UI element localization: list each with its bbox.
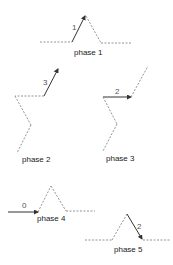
phase-3-low-segment [103,124,117,151]
phase-4-down-segment [51,186,66,211]
phase-5-label: phase 5 [114,245,143,254]
phase-5-up-segment [112,214,127,240]
phase-3-label: phase 3 [106,154,135,163]
phase-2-low-segment [17,125,31,153]
phase-3-mid-segment [103,97,117,124]
phase-4: 0 phase 4 [8,186,95,223]
phase-2: 3 phase 2 [15,69,58,164]
phase-3-step: 2 [115,87,120,96]
phase-4-up-segment [38,186,51,212]
phase-1-step: 1 [72,23,77,32]
phase-4-step: 0 [22,201,27,210]
phase-diagram: 1 phase 1 3 phase 2 2 phase 3 0 phase 4 … [0,0,173,265]
phase-1-label: phase 1 [74,48,103,57]
phase-2-step: 3 [43,78,48,87]
phase-1: 1 phase 1 [40,16,131,57]
phase-3: 2 phase 3 [103,66,148,163]
phase-5: 2 phase 5 [85,214,170,254]
phase-3-up-segment [131,66,148,97]
phase-2-label: phase 2 [22,155,51,164]
phase-5-step: 2 [137,222,142,231]
phase-2-mid-segment [15,96,31,125]
phase-1-down-segment [86,16,101,43]
phase-4-label: phase 4 [37,214,66,223]
